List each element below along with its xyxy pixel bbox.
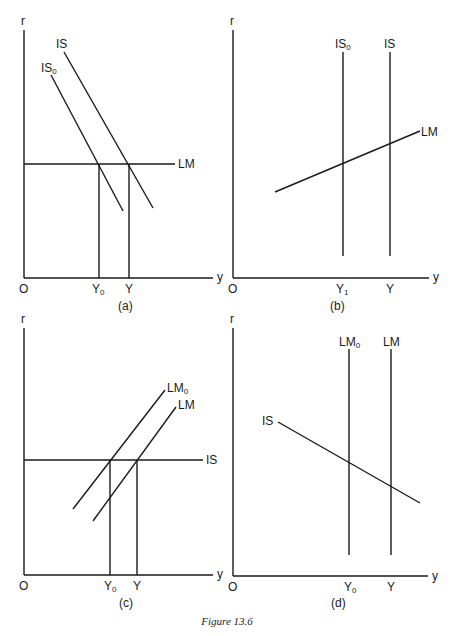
y1-tick-label: Y1 — [336, 282, 349, 297]
figure-13-6: r y O IS IS0 LM Y0 Y (a) r y O IS0 IS LM — [0, 0, 454, 636]
lm-curve — [275, 131, 420, 192]
is-label: IS — [206, 453, 217, 467]
origin-label: O — [19, 282, 28, 296]
panel-caption: (c) — [119, 596, 133, 610]
origin-label: O — [228, 580, 237, 594]
lm0-curve — [73, 390, 165, 509]
lm-curve — [93, 407, 176, 521]
y-tick-label: Y — [387, 580, 395, 594]
r-axis-label: r — [230, 14, 234, 28]
y-tick-label: Y — [133, 579, 141, 593]
r-axis-label: r — [21, 14, 25, 28]
y-axis-label: y — [432, 569, 438, 583]
y0-tick-label: Y0 — [344, 580, 357, 595]
y0-tick-label: Y0 — [104, 579, 117, 594]
panel-caption: (a) — [118, 299, 133, 313]
lm-label: LM — [383, 335, 400, 349]
y0-tick-label: Y0 — [92, 282, 105, 297]
panel-b: r y O IS0 IS LM Y1 Y (b) — [228, 14, 439, 313]
y-tick-label: Y — [125, 282, 133, 296]
r-axis-label: r — [230, 312, 234, 326]
figure-caption: Figure 13.6 — [200, 615, 253, 627]
y-axis-label: y — [217, 270, 223, 284]
origin-label: O — [228, 282, 237, 296]
lm-label: LM — [178, 398, 195, 412]
y-tick-label: Y — [386, 282, 394, 296]
is0-curve — [51, 75, 123, 211]
lm0-label: LM0 — [167, 381, 189, 396]
panel-c: r y O LM0 LM IS Y0 Y (c) — [19, 312, 223, 610]
y-axis-label: y — [433, 270, 439, 284]
panel-d: r y O LM0 LM IS Y0 Y (d) — [228, 312, 438, 610]
is0-label: IS0 — [41, 61, 57, 76]
r-axis-label: r — [21, 312, 25, 326]
is0-label: IS0 — [335, 37, 351, 52]
is-label: IS — [56, 37, 67, 51]
lm0-label: LM0 — [339, 335, 361, 350]
origin-label: O — [19, 579, 28, 593]
lm-label: LM — [421, 125, 438, 139]
lm-label: LM — [178, 157, 195, 171]
y-axis-label: y — [217, 567, 223, 581]
is-label: IS — [384, 37, 395, 51]
panel-caption: (b) — [330, 299, 345, 313]
panel-caption: (d) — [331, 596, 346, 610]
panel-a: r y O IS IS0 LM Y0 Y (a) — [19, 14, 223, 313]
is-label: IS — [262, 414, 273, 428]
